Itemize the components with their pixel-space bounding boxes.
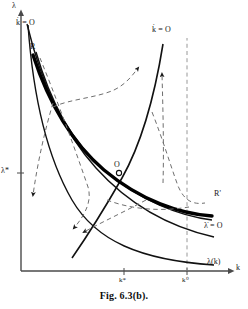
x-axis-label: k bbox=[236, 264, 240, 272]
y-axis-label: λ bbox=[12, 2, 16, 10]
axis-group bbox=[17, 12, 232, 275]
trajectory-upper-right bbox=[53, 68, 138, 107]
trajectory-right-curve bbox=[152, 112, 205, 203]
figure-caption: Fig. 6.3(b). bbox=[0, 290, 248, 301]
steady-state-label: O bbox=[114, 161, 120, 169]
kdot-zero-rising-label: k̇ = O bbox=[152, 26, 171, 34]
y-tick-label: λ* bbox=[1, 167, 9, 175]
x-tick-label-k-zero: k⁰ bbox=[182, 277, 189, 284]
kdot-zero-falling-locus bbox=[27, 24, 214, 237]
trajectory-vertical-up bbox=[162, 74, 163, 183]
trajectory-lower-left bbox=[84, 200, 146, 232]
lower-bound-label: λ(k) bbox=[207, 258, 221, 266]
trajectory-group bbox=[33, 58, 205, 232]
saddle-path-end-label: R' bbox=[214, 190, 221, 198]
x-tick-label-k-star: k* bbox=[119, 277, 126, 284]
lambdadot-zero-label: λ̇ = O bbox=[204, 222, 223, 230]
kdot-zero-top-label: k̇ = O bbox=[16, 19, 35, 27]
saddle-path-RR bbox=[33, 55, 212, 216]
figure-root: λ k λ* k* k⁰ k̇ = O k̇ = O λ̇ = O λ(k) R… bbox=[0, 0, 248, 309]
saddle-path-start-label: R bbox=[30, 43, 35, 51]
steady-state-marker bbox=[116, 170, 121, 175]
